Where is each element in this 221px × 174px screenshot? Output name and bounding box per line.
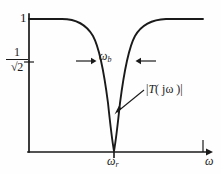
notch-filter-response-figure: 1 1 √2 ωb |T( jω )| ωr ω [0, 0, 221, 174]
resonant-subscript: r [115, 160, 118, 169]
magnitude-leader-arrow [115, 90, 145, 115]
fraction-denominator: √2 [6, 60, 28, 74]
magnitude-argument: ( jω ) [155, 82, 180, 96]
resonant-frequency-label: ωr [107, 155, 119, 169]
bandwidth-label: ωb [99, 50, 111, 64]
magnitude-bar-right: | [180, 82, 182, 96]
bandwidth-arrow-left [76, 58, 97, 64]
fraction-numerator: 1 [6, 47, 28, 60]
y-axis-half-power-label: 1 √2 [6, 47, 28, 74]
x-axis-label: ω [205, 155, 213, 167]
bandwidth-arrow-right [136, 58, 157, 64]
plot-canvas [0, 0, 221, 174]
transfer-function-magnitude-label: |T( jω )| [146, 83, 183, 95]
y-axis-unity-label: 1 [20, 11, 27, 24]
bandwidth-subscript: b [107, 55, 111, 64]
